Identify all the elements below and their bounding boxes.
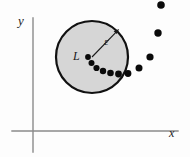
sequence-dot <box>100 68 106 74</box>
sequence-dot <box>93 65 99 71</box>
convergence-diagram-svg <box>0 0 190 157</box>
limit-point-dot <box>85 54 91 60</box>
sequence-dot <box>89 60 95 66</box>
x-axis-label: x <box>169 127 174 139</box>
sequence-dot <box>125 70 132 77</box>
y-axis-label: y <box>18 14 24 27</box>
sequence-dot <box>146 53 153 60</box>
sequence-dot <box>154 29 161 36</box>
epsilon-radius-label: ε <box>104 36 108 47</box>
sequence-dot <box>115 71 122 78</box>
limit-point-label: L <box>73 50 80 62</box>
sequence-dots-outside <box>125 1 165 77</box>
sequence-dot <box>157 1 165 9</box>
sequence-dot <box>107 70 114 77</box>
sequence-dot <box>136 65 143 72</box>
figure-container: y x L ε <box>0 0 190 157</box>
